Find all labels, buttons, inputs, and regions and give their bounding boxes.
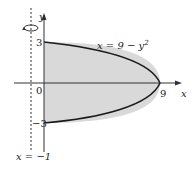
tick-x-9: 9 (160, 88, 166, 99)
curve-label: x = 9 − y2 (97, 39, 149, 51)
rotation-arrowhead-icon (22, 27, 26, 30)
y-axis-label: y (38, 11, 45, 22)
tick-y-3: 3 (36, 37, 42, 48)
tick-origin: 0 (36, 85, 42, 96)
region-diagram: y x 3 0 −3 9 x = 9 − y2 x = −1 (0, 0, 194, 175)
tick-y-neg3: −3 (32, 118, 47, 129)
x-axis-arrow-icon (175, 81, 182, 86)
x-axis-label: x (181, 88, 187, 99)
line-label: x = −1 (16, 151, 51, 162)
